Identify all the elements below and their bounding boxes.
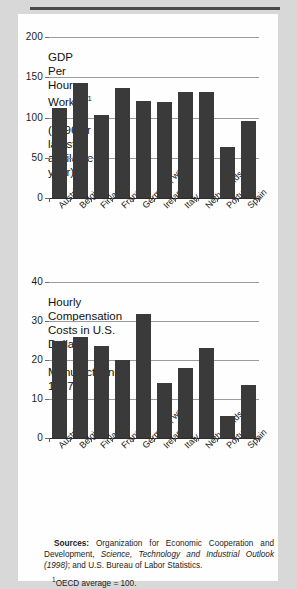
x-tick-mark (49, 438, 50, 442)
y-tick-mark (45, 321, 49, 322)
x-tick-mark (238, 438, 239, 442)
source-label: Sources: (54, 539, 89, 548)
x-tick-mark (175, 438, 176, 442)
bar (199, 348, 214, 438)
x-tick-mark (112, 198, 113, 202)
y-axis-tick-label: 40 (15, 277, 43, 287)
bar (94, 346, 109, 438)
x-tick-mark (217, 198, 218, 202)
footnote: 1OECD average = 100. (44, 574, 274, 589)
x-tick-mark (133, 438, 134, 442)
x-tick-mark (154, 198, 155, 202)
x-tick-mark (259, 198, 260, 202)
y-axis-tick-label: 30 (15, 316, 43, 326)
bar (115, 360, 130, 438)
bar (157, 102, 172, 198)
bar (241, 121, 256, 198)
x-tick-mark (217, 438, 218, 442)
y-axis-tick-label: 0 (15, 433, 43, 443)
bar (52, 108, 67, 198)
chart-title-superscript: 1 (87, 94, 91, 103)
x-tick-mark (133, 198, 134, 202)
y-tick-mark (45, 282, 49, 283)
bar (136, 101, 151, 198)
footnote-text: OECD average = 100. (56, 579, 137, 588)
header-rule (30, 7, 280, 10)
source-note: Sources: Organization for Economic Coope… (44, 538, 274, 571)
x-tick-mark (112, 438, 113, 442)
y-tick-mark (45, 399, 49, 400)
x-tick-mark (70, 198, 71, 202)
bar (94, 115, 109, 198)
y-tick-mark (45, 360, 49, 361)
x-tick-mark (238, 198, 239, 202)
x-tick-mark (196, 438, 197, 442)
bar (157, 383, 172, 438)
bar (52, 341, 67, 438)
bar (73, 83, 88, 198)
y-axis-tick-label: 200 (15, 32, 43, 42)
x-tick-mark (91, 198, 92, 202)
bar (115, 88, 130, 198)
y-axis-tick-label: 0 (15, 193, 43, 203)
bar (178, 368, 193, 438)
x-tick-mark (154, 438, 155, 442)
figure-sheet: GDP Per Hour Worked1 (1996 or latest ava… (18, 14, 278, 581)
y-tick-mark (45, 37, 49, 38)
bar (220, 147, 235, 198)
y-axis-tick-label: 50 (15, 153, 43, 163)
bar (241, 385, 256, 438)
x-tick-mark (91, 438, 92, 442)
gridline (49, 77, 259, 78)
bar (178, 92, 193, 198)
gridline (49, 321, 259, 322)
x-tick-mark (70, 438, 71, 442)
x-tick-mark (259, 438, 260, 442)
bar (199, 92, 214, 198)
y-tick-mark (45, 77, 49, 78)
x-tick-mark (196, 198, 197, 202)
y-axis-tick-label: 10 (15, 394, 43, 404)
y-tick-mark (45, 118, 49, 119)
y-axis-tick-label: 100 (15, 113, 43, 123)
y-axis-tick-label: 150 (15, 72, 43, 82)
gridline (49, 37, 259, 38)
source-text-part2: ; and U.S. Bureau of Labor Statistics. (68, 561, 203, 570)
gridline (49, 282, 259, 283)
x-tick-mark (49, 198, 50, 202)
x-tick-mark (175, 198, 176, 202)
bar (73, 337, 88, 438)
y-axis-tick-label: 20 (15, 355, 43, 365)
bar (136, 314, 151, 438)
y-tick-mark (45, 158, 49, 159)
